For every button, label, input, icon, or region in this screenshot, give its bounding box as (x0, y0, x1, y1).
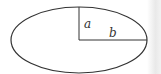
ellipse-diagram: a b (0, 0, 161, 74)
label-b: b (109, 26, 117, 40)
ellipse-figure: a b (0, 0, 161, 74)
label-a: a (84, 17, 91, 31)
